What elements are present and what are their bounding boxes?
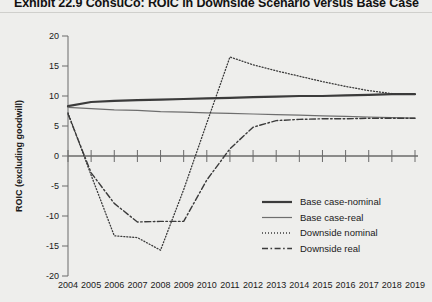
x-tick-label: 2011 <box>220 280 239 290</box>
chart-svg: 20151050-5-10-15-20 ROIC (excluding good… <box>0 0 432 302</box>
x-tick-label: 2006 <box>104 280 124 290</box>
x-tick-label: 2010 <box>197 280 217 290</box>
legend-label-0: Base case-nominal <box>300 196 381 207</box>
y-tick-label: 10 <box>49 91 59 101</box>
y-tick-label: 15 <box>49 61 59 71</box>
x-tick-label: 2004 <box>58 280 78 290</box>
y-axis-title: ROIC (excluding goodwill) <box>14 100 24 212</box>
y-tick-label: -5 <box>51 181 59 191</box>
x-axis: 2004200520062007200820092010201120122013… <box>58 150 425 290</box>
x-tick-label: 2016 <box>336 280 356 290</box>
legend-label-2: Downside nominal <box>300 227 378 238</box>
y-tick-label: 0 <box>54 151 59 161</box>
x-tick-label: 2017 <box>359 280 379 290</box>
x-tick-label: 2009 <box>174 280 194 290</box>
y-tick-marks <box>62 36 68 276</box>
x-tick-label: 2007 <box>127 280 147 290</box>
x-tick-label: 2018 <box>382 280 402 290</box>
x-tick-label: 2013 <box>266 280 286 290</box>
chart-legend: Base case-nominalBase case-realDownside … <box>262 196 381 254</box>
legend-label-3: Downside real <box>300 243 360 254</box>
y-tick-labels: 20151050-5-10-15-20 <box>46 31 59 281</box>
y-tick-label: 20 <box>49 31 59 41</box>
x-tick-label: 2012 <box>243 280 263 290</box>
y-tick-label: -10 <box>46 211 59 221</box>
y-tick-label: 5 <box>54 121 59 131</box>
x-tick-label: 2019 <box>405 280 425 290</box>
x-tick-label: 2015 <box>312 280 332 290</box>
roic-line-chart: 20151050-5-10-15-20 ROIC (excluding good… <box>0 0 432 302</box>
x-tick-label: 2014 <box>289 280 309 290</box>
series-line-0 <box>68 94 415 106</box>
x-tick-label: 2008 <box>151 280 171 290</box>
x-tick-labels: 2004200520062007200820092010201120122013… <box>58 280 425 290</box>
y-axis: 20151050-5-10-15-20 ROIC (excluding good… <box>14 31 68 281</box>
series-line-1 <box>68 107 415 118</box>
y-tick-label: -15 <box>46 241 59 251</box>
x-tick-label: 2005 <box>81 280 101 290</box>
legend-label-1: Base case-real <box>300 212 363 223</box>
